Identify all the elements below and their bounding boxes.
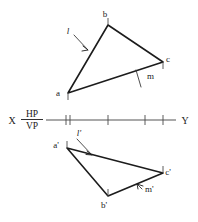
plane-label-hp: HP	[26, 109, 38, 119]
figure-canvas: a b c l m X Y HP	[0, 0, 198, 222]
axis-label-x: X	[8, 115, 16, 126]
hp-vp-fraction: HP VP	[21, 109, 43, 131]
edge-leader-m: m	[136, 70, 154, 87]
top-view-group: a b c l m	[56, 9, 170, 100]
vertex-label-c: c	[166, 54, 170, 64]
edge-label-m: m	[147, 71, 154, 81]
vertex-label-a-prime: a'	[53, 140, 59, 150]
edge-leader-m-prime: m'	[137, 184, 154, 194]
vertex-label-b: b	[103, 9, 108, 19]
edge-label-l-prime: l'	[77, 128, 83, 138]
top-view-triangle	[68, 25, 163, 93]
xy-reference-line-group: X Y HP VP	[8, 109, 188, 131]
edge-label-m-prime: m'	[145, 184, 154, 194]
vertex-label-a: a	[56, 88, 60, 98]
leader-line-m	[136, 70, 141, 87]
edge-label-l: l	[67, 26, 70, 36]
vertex-label-c-prime: c'	[165, 167, 171, 177]
edge-leader-l: l	[67, 26, 88, 51]
orthographic-projection-figure: a b c l m X Y HP	[0, 0, 198, 222]
axis-label-y: Y	[181, 115, 188, 126]
front-view-group: a' b' c' l' m'	[53, 128, 171, 210]
plane-label-vp: VP	[26, 121, 38, 131]
vertex-label-b-prime: b'	[101, 200, 108, 210]
